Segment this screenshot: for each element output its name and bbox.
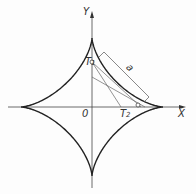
point-t1-label: T1: [85, 56, 96, 67]
y-axis-arrow-icon: [90, 11, 94, 18]
astroid-diagram: Y X 0 T1 T2 a: [0, 0, 196, 194]
point-t2-label: T2: [120, 108, 131, 119]
y-axis-label: Y: [83, 6, 89, 17]
t1-subscript: 1: [91, 59, 95, 67]
x-axis-label: X: [178, 108, 185, 119]
diagram-svg: [0, 0, 196, 194]
dimension-bracket-a: [99, 52, 149, 102]
origin-label: 0: [82, 108, 88, 119]
t2-subscript: 2: [126, 111, 130, 119]
point-tangent: [136, 103, 140, 107]
